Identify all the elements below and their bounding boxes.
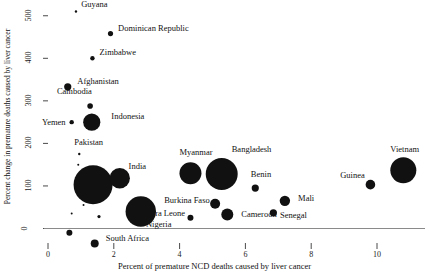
point-label-guyana: Guyana (81, 0, 107, 9)
point-label-yemen: Yemen (42, 118, 66, 127)
y-axis-title: Percent change in premature deaths cause… (2, 0, 14, 232)
x-tick-label: 0 (46, 250, 50, 259)
bubble-benin (252, 184, 259, 191)
bubble-yemen (69, 120, 73, 124)
y-tick-label: 100 (24, 179, 33, 191)
point-label-indonesia: Indonesia (111, 112, 144, 121)
point-label-mali: Mali (298, 194, 314, 203)
y-tick-label: 200 (24, 137, 33, 149)
point-label-cambodia: Cambodia (57, 87, 92, 96)
point-label-nigeria: Nigeria (146, 220, 172, 229)
point-label-india: India (129, 162, 146, 171)
x-axis-title: Percent of premature NCD deaths caused b… (0, 261, 429, 271)
bubble-pakistan (77, 164, 79, 166)
bubble-bangladesh (206, 158, 238, 190)
bubble-cambodia (87, 103, 93, 109)
bubble-myanmar (179, 162, 201, 184)
plot-canvas (0, 0, 429, 273)
bubble-indonesia (83, 114, 100, 131)
bubble-unlabeled (110, 168, 130, 188)
x-tick-label: 8 (309, 250, 313, 259)
bubble-unlabeled (97, 215, 100, 218)
x-tick-label: 2 (112, 250, 116, 259)
bubble-unlabeled (66, 230, 72, 236)
y-axis-title-text: Percent change in premature deaths cause… (4, 28, 13, 203)
point-label-bangladesh: Bangladesh (232, 145, 272, 154)
point-label-burkina-faso: Burkina Faso (164, 196, 210, 205)
point-label-benin: Benin (251, 170, 271, 179)
bubble-dominican-republic (108, 31, 113, 36)
point-label-zimbabwe: Zimbabwe (100, 48, 136, 57)
y-tick-label: 300 (24, 94, 33, 106)
axis-ticks (43, 16, 377, 249)
y-tick-label: 500 (24, 9, 33, 21)
bubble-burkina-faso (210, 199, 220, 209)
point-label-pakistan: Pakistan (74, 138, 103, 147)
x-tick-label: 4 (178, 250, 182, 259)
bubble-zimbabwe (90, 56, 94, 60)
point-label-dominican-republic: Dominican Republic (118, 24, 189, 33)
y-tick-label: 400 (24, 52, 33, 64)
bubble-layer (64, 10, 416, 247)
point-label-senegal: Senegal (280, 211, 307, 220)
bubble-vietnam (390, 157, 416, 183)
bubble-south-africa (91, 239, 99, 247)
bubble-unlabeled (78, 153, 80, 155)
bubble-india (74, 165, 113, 204)
point-label-south-africa: South Africa (106, 234, 149, 243)
bubble-mali (280, 196, 290, 206)
point-label-vietnam: Vietnam (390, 145, 419, 154)
bubble-cameroon (221, 208, 233, 220)
point-label-guinea: Guinea (340, 171, 365, 180)
point-label-afghanistan: Afghanistan (77, 77, 119, 86)
bubble-guyana (75, 10, 77, 12)
scatter-plot-figure: GuyanaDominican RepublicZimbabweAfghanis… (0, 0, 429, 273)
bubble-unlabeled (71, 213, 73, 215)
bubble-unlabeled (83, 204, 85, 206)
point-label-sierra-leone: Sierra Leone (141, 209, 185, 218)
bubble-guinea (366, 180, 376, 190)
x-tick-label: 10 (373, 250, 381, 259)
x-tick-label: 6 (243, 250, 247, 259)
bubble-sierra-leone (187, 215, 193, 221)
point-label-myanmar: Myanmar (179, 148, 212, 157)
point-label-cameroon: Cameroon (241, 210, 276, 219)
y-tick-label: 0 (20, 226, 29, 230)
